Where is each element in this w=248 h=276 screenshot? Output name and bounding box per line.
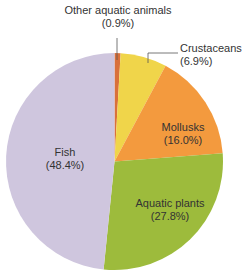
label-name: Other aquatic animals — [58, 4, 178, 17]
label-percent: (6.9%) — [180, 55, 242, 68]
label-percent: (27.8%) — [120, 210, 220, 223]
label-other-aquatic-animals: Other aquatic animals (0.9%) — [58, 4, 178, 30]
label-fish: Fish (48.4%) — [35, 146, 95, 172]
label-name: Crustaceans — [180, 42, 242, 55]
label-name: Aquatic plants — [120, 197, 220, 210]
label-percent: (16.0%) — [143, 134, 223, 147]
label-aquatic-plants: Aquatic plants (27.8%) — [120, 197, 220, 223]
label-mollusks: Mollusks (16.0%) — [143, 121, 223, 147]
label-percent: (48.4%) — [35, 159, 95, 172]
label-percent: (0.9%) — [58, 17, 178, 30]
label-name: Mollusks — [143, 121, 223, 134]
label-crustaceans: Crustaceans (6.9%) — [180, 42, 242, 68]
label-name: Fish — [35, 146, 95, 159]
